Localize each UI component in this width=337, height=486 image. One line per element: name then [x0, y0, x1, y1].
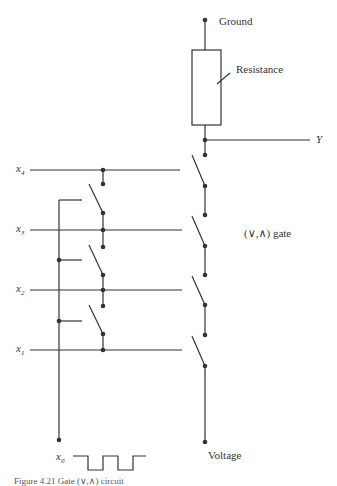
- x3-label: x3: [16, 222, 24, 237]
- gate-label: (∨,∧) gate: [244, 227, 291, 240]
- x4-subscript: 4: [21, 169, 25, 177]
- ground-label: Ground: [219, 15, 253, 27]
- circuit-diagram: [0, 0, 337, 486]
- x0-subscript: 0: [61, 457, 65, 465]
- series-switch-column: [192, 155, 205, 442]
- x0-label: x0: [56, 450, 64, 465]
- x1-label: x1: [16, 342, 24, 357]
- input-lines: [30, 170, 182, 350]
- voltage-label: Voltage: [208, 449, 241, 461]
- clock-waveform: [73, 456, 146, 470]
- x0-bus: [59, 200, 82, 440]
- x4-label: x4: [16, 162, 24, 177]
- x2-label: x2: [16, 282, 24, 297]
- figure-caption: Figure 4.21 Gate (∨,∧) circuit: [14, 476, 124, 486]
- resistor-branch: [192, 20, 310, 155]
- x1-subscript: 1: [21, 349, 25, 357]
- output-y-label: Y: [316, 133, 322, 145]
- resistance-pointer: [217, 73, 230, 84]
- x2-subscript: 2: [21, 289, 25, 297]
- parallel-switch-column: [89, 170, 103, 350]
- x3-subscript: 3: [21, 229, 25, 237]
- resistance-label: Resistance: [236, 63, 283, 75]
- resistor-box: [192, 50, 221, 125]
- junction-dots: [57, 18, 208, 445]
